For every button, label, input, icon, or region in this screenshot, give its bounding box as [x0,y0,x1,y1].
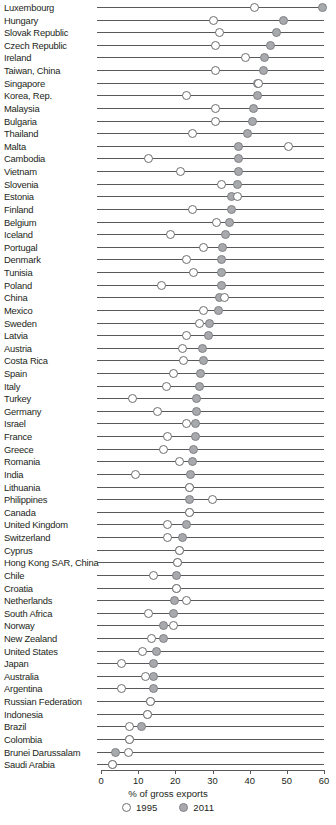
row-connector-line [101,348,324,349]
row-label-philippines: Philippines [4,494,96,505]
row-label-singapore: Singapore [4,78,96,89]
marker-2011 [249,104,258,113]
x-axis-tick [138,770,139,774]
marker-1995 [125,722,134,731]
row-connector-line [101,95,324,96]
marker-1995 [185,508,194,517]
marker-2011 [186,470,195,479]
row-connector-line [101,600,324,601]
row-connector-line [101,487,324,488]
row-label-ireland: Ireland [4,52,96,63]
marker-2011 [227,205,236,214]
marker-2011 [234,142,243,151]
marker-2011 [182,520,191,529]
row-connector-line [101,297,324,298]
marker-1995 [179,356,188,365]
row-connector-line [101,461,324,462]
row-connector-line [101,575,324,576]
marker-1995 [175,546,184,555]
row-label-israel: Israel [4,418,96,429]
chart-legend: 1995 2011 [0,802,336,813]
marker-2011 [253,91,262,100]
row-label-taiwan-china: Taiwan, China [4,65,96,76]
marker-1995 [157,281,166,290]
row-label-sweden: Sweden [4,318,96,329]
row-connector-line [101,57,324,58]
marker-2011 [279,16,288,25]
marker-2011 [172,571,181,580]
row-connector-line [101,688,324,689]
row-label-romania: Romania [4,456,96,467]
row-connector-line [101,752,324,753]
row-label-saudi-arabia: Saudi Arabia [4,759,96,770]
marker-1995 [233,192,242,201]
row-connector-line [101,386,324,387]
open-circle-icon [122,803,131,812]
marker-1995 [182,331,191,340]
marker-1995 [215,28,224,37]
row-label-china: China [4,292,96,303]
legend-item-2011: 2011 [179,802,214,813]
marker-1995 [220,293,229,302]
marker-1995 [143,710,152,719]
marker-1995 [117,684,126,693]
row-label-vietnam: Vietnam [4,166,96,177]
row-connector-line [101,196,324,197]
marker-1995 [163,533,172,542]
row-label-norway: Norway [4,620,96,631]
marker-2011 [185,495,194,504]
marker-1995 [178,344,187,353]
row-label-cyprus: Cyprus [4,545,96,556]
row-label-malta: Malta [4,141,96,152]
marker-1995 [182,596,191,605]
row-label-germany: Germany [4,406,96,417]
row-label-argentina: Argentina [4,683,96,694]
x-axis-tick-label: 0 [89,775,113,786]
legend-label-1995: 1995 [136,802,157,813]
marker-2011 [189,445,198,454]
row-connector-line [101,651,324,652]
row-label-turkey: Turkey [4,393,96,404]
marker-1995 [182,419,191,428]
row-label-estonia: Estonia [4,191,96,202]
x-axis-tick-label: 60 [312,775,336,786]
marker-1995 [241,53,250,62]
row-label-finland: Finland [4,204,96,215]
x-axis-tick-label: 30 [201,775,225,786]
marker-2011 [191,432,200,441]
marker-1995 [182,255,191,264]
row-label-mexico: Mexico [4,305,96,316]
marker-1995 [185,483,194,492]
marker-1995 [146,697,155,706]
marker-1995 [209,16,218,25]
row-connector-line [101,247,324,248]
marker-2011 [243,129,252,138]
marker-2011 [195,382,204,391]
row-connector-line [101,7,324,8]
marker-1995 [163,432,172,441]
marker-1995 [217,180,226,189]
x-axis-tick-label: 10 [126,775,150,786]
row-label-czech-republic: Czech Republic [4,40,96,51]
row-label-cambodia: Cambodia [4,153,96,164]
row-connector-line [101,423,324,424]
marker-2011 [233,180,242,189]
marker-1995 [173,558,182,567]
marker-2011 [159,621,168,630]
x-axis-tick-label: 50 [275,775,299,786]
chart-plot-area: LuxembourgHungarySlovak RepublicCzech Re… [0,0,336,770]
marker-1995 [162,382,171,391]
row-label-slovenia: Slovenia [4,179,96,190]
row-connector-line [101,588,324,589]
row-label-lithuania: Lithuania [4,482,96,493]
marker-1995 [254,79,263,88]
row-connector-line [101,259,324,260]
marker-1995 [211,117,220,126]
marker-2011 [169,609,178,618]
row-label-italy: Italy [4,381,96,392]
row-label-hungary: Hungary [4,15,96,26]
marker-1995 [117,659,126,668]
row-connector-line [101,310,324,311]
marker-2011 [191,419,200,428]
row-connector-line [101,158,324,159]
